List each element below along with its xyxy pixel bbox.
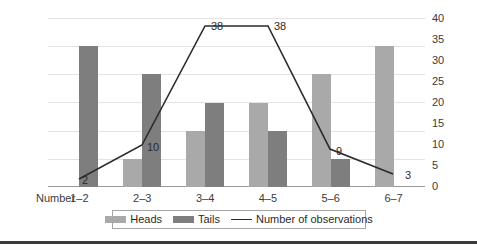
line-label-5-6: 9 [336, 146, 342, 157]
line-label-3-4: 38 [211, 21, 223, 32]
line-label-2-3: 10 [147, 142, 159, 153]
right-axis-tick-15: 15 [432, 118, 444, 129]
bar-heads-4-5 [249, 103, 268, 187]
right-axis-tick-40: 40 [432, 13, 444, 24]
legend-item-number-of-observations[interactable]: Number of observations [231, 214, 373, 225]
line-label-1-2: 2 [82, 175, 88, 186]
bar-group-3-4 [174, 18, 237, 187]
bar-group-5-6 [299, 18, 362, 187]
bar-tails-2-3 [142, 74, 161, 187]
bar-group-6-7 [362, 18, 425, 187]
right-axis-tick-10: 10 [432, 139, 444, 150]
legend-item-tails[interactable]: Tails [173, 214, 220, 225]
bar-tails-1-2 [79, 46, 98, 187]
x-axis-category-labels: 1–2 2–3 3–4 4–5 5–6 6–7 [48, 190, 425, 206]
x-axis-label-2-3: 2–3 [111, 190, 174, 206]
bar-group-2-3 [111, 18, 174, 187]
bar-group-1-2 [48, 18, 111, 187]
x-axis-label-6-7: 6–7 [362, 190, 425, 206]
legend-swatch-tails-icon [173, 216, 194, 223]
bar-group-4-5 [236, 18, 299, 187]
right-axis-tick-5: 5 [432, 160, 438, 171]
legend-label-heads: Heads [130, 214, 162, 225]
bottom-divider [0, 241, 477, 244]
bar-heads-3-4 [186, 131, 205, 187]
right-axis-tick-0: 0 [432, 181, 438, 192]
bar-tails-4-5 [268, 131, 287, 187]
legend-line-icon [231, 219, 252, 220]
legend-swatch-heads-icon [105, 216, 126, 223]
line-label-6-7: 3 [405, 170, 411, 181]
bar-tails-5-6 [331, 159, 350, 187]
plot-area: 2 10 38 38 9 3 [48, 18, 425, 187]
bar-heads-6-7 [375, 46, 394, 187]
bar-tails-3-4 [205, 103, 224, 187]
x-axis-label-1-2: 1–2 [48, 190, 111, 206]
bar-heads-5-6 [312, 74, 331, 187]
line-label-4-5: 38 [274, 21, 286, 32]
legend-label-number-of-observations: Number of observations [256, 214, 373, 225]
right-axis-tick-25: 25 [432, 76, 444, 87]
legend-label-tails: Tails [198, 214, 220, 225]
x-axis-label-3-4: 3–4 [174, 190, 237, 206]
chart-legend: Heads Tails Number of observations [112, 210, 366, 229]
bar-heads-2-3 [123, 159, 142, 187]
x-axis-label-5-6: 5–6 [299, 190, 362, 206]
right-axis-tick-35: 35 [432, 34, 444, 45]
bars-layer [48, 18, 425, 187]
right-axis-tick-20: 20 [432, 97, 444, 108]
right-axis-tick-30: 30 [432, 55, 444, 66]
combo-chart: 6 5 4 3 2 1 0 40 35 30 25 20 15 10 5 0 [0, 0, 477, 252]
legend-item-heads[interactable]: Heads [105, 214, 162, 225]
x-axis-label-4-5: 4–5 [236, 190, 299, 206]
